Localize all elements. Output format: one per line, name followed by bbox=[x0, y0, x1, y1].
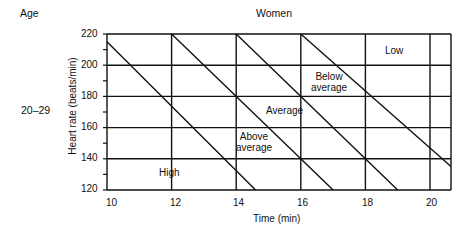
x-tick-label: 20 bbox=[426, 197, 437, 208]
y-tick-label: 200 bbox=[81, 59, 98, 70]
x-axis-title: Time (min) bbox=[253, 213, 300, 224]
boundary-line bbox=[172, 34, 334, 190]
zone-label-high: High bbox=[159, 167, 180, 178]
boundary-line bbox=[301, 34, 451, 167]
y-tick-label: 160 bbox=[81, 121, 98, 132]
zone-label-line: average bbox=[230, 142, 278, 153]
y-tick-label: 140 bbox=[81, 152, 98, 163]
zone-label-below-average: Below average bbox=[305, 71, 353, 93]
y-tick-label: 120 bbox=[81, 183, 98, 194]
zone-label-line: average bbox=[305, 82, 353, 93]
x-tick-label: 14 bbox=[233, 197, 244, 208]
x-tick-label: 10 bbox=[106, 197, 117, 208]
y-tick-label: 180 bbox=[81, 90, 98, 101]
zone-label-above-average: Above average bbox=[230, 131, 278, 153]
zone-label-line: Above bbox=[230, 131, 278, 142]
x-tick-label: 12 bbox=[170, 197, 181, 208]
y-tick-label: 220 bbox=[81, 28, 98, 39]
boundary-line bbox=[236, 34, 398, 190]
boundary-line bbox=[107, 42, 256, 190]
zone-label-line: Below bbox=[305, 71, 353, 82]
y-axis-title: Heart rate (beats/min) bbox=[67, 57, 78, 154]
zone-label-average: Average bbox=[266, 105, 303, 116]
x-tick-label: 18 bbox=[362, 197, 373, 208]
x-tick-label: 16 bbox=[297, 197, 308, 208]
zone-label-low: Low bbox=[385, 45, 403, 56]
